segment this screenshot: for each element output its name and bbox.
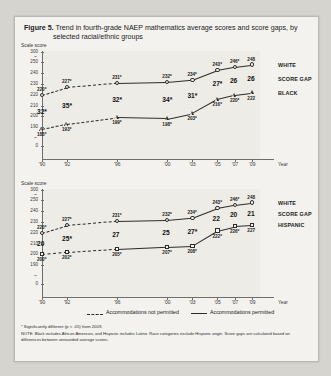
screenshot-page: Figure 5. Trend in fourth-grade NAEP mat…: [0, 0, 331, 376]
x-axis-label-white-black: Year: [272, 162, 294, 167]
data-point-label: 220*: [37, 87, 46, 92]
data-point-label: 216*: [212, 102, 221, 107]
data-point-marker: [250, 90, 254, 94]
y-axis-title-top: Scale score: [21, 43, 47, 48]
data-point-marker: [215, 68, 219, 72]
y-axis-tick-label: 0: [25, 281, 38, 286]
y-axis-tick-label: 200: [25, 251, 38, 256]
y-axis-break-white-hispanic: ~: [34, 272, 37, 278]
data-point-marker: [190, 111, 194, 115]
data-point-label: 243*: [212, 200, 221, 205]
data-point-marker: [233, 224, 237, 228]
series-name-score-gap: SCORE GAP: [278, 76, 312, 82]
y-axis-tick-label: 230: [25, 81, 38, 86]
x-axis-label-white-hispanic: Year: [272, 300, 294, 305]
chart-legend: Accommodations not permitted Accommodati…: [15, 309, 318, 319]
y-axis-tick: [41, 211, 44, 212]
data-point-label: 231*: [112, 75, 121, 80]
y-axis-tick-label: 240: [25, 70, 38, 75]
score-gap-label: 34*: [162, 96, 172, 103]
data-point-label: 205*: [112, 252, 121, 257]
series-name-black: BLACK: [278, 90, 298, 96]
y-axis-tick: [41, 265, 44, 266]
footnote-significance: * Significantly different (p < .05) from…: [21, 324, 301, 330]
data-point-label: 248: [247, 195, 255, 200]
data-point-label: 227*: [62, 217, 71, 222]
data-point-label: 220*: [37, 225, 46, 230]
y-axis-tick: [41, 284, 44, 285]
y-axis-tick-label: 0: [25, 143, 38, 148]
score-gap-label: 32*: [112, 96, 122, 103]
score-gap-label: 26: [247, 75, 254, 82]
series-name-hispanic: HISPANIC: [278, 222, 305, 228]
y-axis-tick: [41, 106, 44, 107]
score-gap-label: 35*: [62, 102, 72, 109]
y-axis-tick: [41, 52, 44, 53]
data-point-label: 234*: [187, 72, 196, 77]
y-axis-tick-label: 230: [25, 219, 38, 224]
data-point-label: 226*: [230, 229, 239, 234]
x-axis-tick-label: '05: [209, 162, 225, 167]
legend-label-permitted: Accommodations permitted: [210, 309, 274, 315]
data-point-marker: [39, 127, 43, 131]
y-axis-tick-label: 250: [25, 197, 38, 202]
score-gap-label: 27*: [212, 80, 222, 87]
data-point-marker: [215, 97, 219, 101]
score-gap-label: 20: [230, 211, 237, 218]
data-point-marker: [165, 116, 169, 120]
y-axis-tick-label: 240: [25, 208, 38, 213]
score-gap-label: 32*: [37, 108, 47, 115]
data-point-label: 222: [247, 96, 255, 101]
data-point-label: 232*: [162, 212, 171, 217]
figure-sheet: Figure 5. Trend in fourth-grade NAEP mat…: [14, 16, 319, 362]
data-point-label: 199*: [112, 120, 121, 125]
x-axis-tick-label: '03: [184, 300, 200, 305]
data-point-marker: [64, 122, 68, 126]
data-point-marker: [40, 93, 44, 97]
y-axis-tick-label: 190: [25, 262, 38, 267]
data-point-label: 246*: [230, 197, 239, 202]
series-name-score-gap: SCORE GAP: [278, 211, 312, 217]
data-point-label: 232*: [162, 74, 171, 79]
data-point-label: 248: [247, 57, 255, 62]
x-axis-tick-label: '92: [59, 300, 75, 305]
data-point-marker: [65, 250, 69, 254]
data-point-marker: [215, 228, 219, 232]
series-name-white: WHITE: [278, 200, 296, 206]
score-gap-label: 22: [212, 215, 219, 222]
x-axis-tick-label: '05: [209, 300, 225, 305]
x-axis-tick-label: '00: [159, 300, 175, 305]
x-axis-tick-label: '03: [184, 162, 200, 167]
x-axis-tick-label: '92: [59, 162, 75, 167]
chart-panel-white-hispanic: Scale score 300~250240230220210200190~0'…: [21, 181, 319, 311]
data-point-label: 202*: [62, 255, 71, 260]
x-axis-line-white-hispanic: [42, 297, 274, 298]
y-axis-tick: [41, 190, 44, 191]
score-gap-label: 26: [230, 77, 237, 84]
data-point-marker: [115, 247, 119, 251]
y-axis-tick: [41, 62, 44, 63]
data-point-marker: [190, 78, 194, 82]
figure-title-line1: Trend in fourth-grade NAEP mathematics a…: [55, 24, 297, 32]
y-axis-tick-label: 210: [25, 103, 38, 108]
x-axis-tick-label: '96: [109, 162, 125, 167]
y-axis-tick: [41, 116, 44, 117]
y-axis-tick-label: 190: [25, 124, 38, 129]
data-point-marker: [232, 93, 236, 97]
data-point-label: 227: [247, 228, 255, 233]
y-axis-title-bottom: Scale score: [21, 181, 47, 186]
x-axis-tick-label: '09: [244, 162, 260, 167]
data-point-marker: [165, 245, 169, 249]
data-point-marker: [115, 115, 119, 119]
figure-heading: Figure 5. Trend in fourth-grade NAEP mat…: [24, 24, 310, 42]
figure-label: Figure 5.: [24, 24, 54, 32]
score-gap-label: 21: [247, 210, 254, 217]
data-point-label: 208*: [187, 249, 196, 254]
score-gap-label: 31*: [187, 92, 197, 99]
y-axis-tick-label: 250: [25, 59, 38, 64]
y-axis-tick: [41, 73, 44, 74]
x-axis-tick-label: '96: [109, 300, 125, 305]
data-point-marker: [190, 216, 194, 220]
x-axis-tick-label: '07: [227, 162, 243, 167]
data-point-label: 227*: [62, 79, 71, 84]
